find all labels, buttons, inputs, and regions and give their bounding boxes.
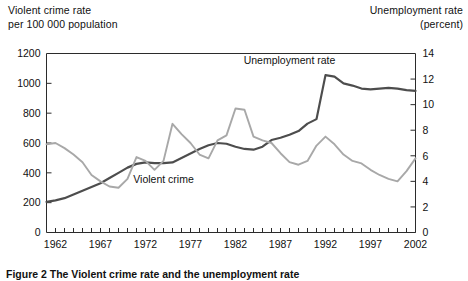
svg-text:1200: 1200 — [17, 47, 41, 59]
svg-text:600: 600 — [23, 137, 41, 149]
svg-text:1000: 1000 — [17, 77, 41, 89]
svg-text:10: 10 — [423, 98, 435, 110]
svg-text:1962: 1962 — [44, 238, 68, 250]
svg-text:8: 8 — [423, 124, 429, 136]
svg-text:200: 200 — [23, 196, 41, 208]
svg-text:1977: 1977 — [179, 238, 203, 250]
series-line-unemployment-rate — [47, 108, 416, 187]
series-inline-labels: Violent crimeUnemployment rate — [133, 54, 335, 186]
svg-text:800: 800 — [23, 107, 41, 119]
svg-text:14: 14 — [423, 47, 435, 59]
data-series-group — [47, 75, 416, 202]
svg-text:1967: 1967 — [89, 238, 113, 250]
right-axis-tick-labels: 02468101214 — [423, 47, 435, 238]
svg-text:2: 2 — [423, 201, 429, 213]
left-axis-tick-labels: 020040060080010001200 — [17, 47, 41, 238]
svg-text:12: 12 — [423, 73, 435, 85]
svg-text:4: 4 — [423, 175, 429, 187]
plot-frame — [47, 54, 416, 233]
svg-text:1982: 1982 — [224, 238, 248, 250]
svg-text:6: 6 — [423, 150, 429, 162]
figure-caption: Figure 2 The Violent crime rate and the … — [6, 268, 462, 281]
axis-tick-marks — [47, 79, 416, 232]
svg-text:1972: 1972 — [134, 238, 158, 250]
svg-text:400: 400 — [23, 167, 41, 179]
svg-text:1987: 1987 — [269, 238, 293, 250]
svg-text:0: 0 — [423, 226, 429, 238]
svg-text:0: 0 — [35, 226, 41, 238]
svg-text:1992: 1992 — [314, 238, 338, 250]
inline-label: Violent crime — [133, 173, 194, 185]
inline-label: Unemployment rate — [244, 54, 336, 66]
svg-text:2002: 2002 — [404, 238, 428, 250]
x-axis-tick-labels: 196219671972197719821987199219972002 — [44, 238, 428, 250]
svg-text:1997: 1997 — [359, 238, 383, 250]
